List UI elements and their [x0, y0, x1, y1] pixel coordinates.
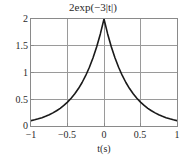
- x-axis-tick-labels: −1 −0.5 0 0.5 1: [0, 0, 186, 158]
- x-axis-label: t(s): [30, 143, 178, 154]
- xtick-label-0p5: 0.5: [123, 129, 157, 140]
- chart-figure: 2exp(−3|t|) 2 1.5 1 0.5 0 −1 −0.5: [0, 0, 186, 158]
- xtick-label-1: 1: [160, 129, 186, 140]
- xtick-label-neg1: −1: [14, 129, 48, 140]
- xtick-label-neg0p5: −0.5: [50, 129, 84, 140]
- xtick-label-0: 0: [87, 129, 121, 140]
